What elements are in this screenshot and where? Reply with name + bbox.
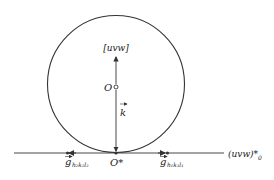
plane-label: (uvw)*: [228, 149, 259, 159]
g-right-point: [166, 152, 169, 155]
ewald-diagram: [uvw] O k O* (uvw)* 0 g h₂k₂l₂ g h₁k₁l₁: [0, 0, 274, 180]
g-right-subscript: h₁k₁l₁: [167, 161, 184, 168]
k-vector-label: k: [120, 107, 126, 118]
g-left-label: g: [65, 156, 71, 167]
g-left-point: [66, 152, 69, 155]
plane-subscript: 0: [258, 154, 262, 161]
center-point-o: [114, 85, 118, 89]
center-o-label: O: [104, 82, 112, 93]
origin-point-o-star: [114, 151, 117, 154]
g-right-label: g: [160, 156, 166, 167]
uvw-direction-label: [uvw]: [103, 43, 129, 53]
origin-o-star-label: O*: [110, 157, 123, 168]
g-left-subscript: h₂k₂l₂: [72, 161, 89, 168]
